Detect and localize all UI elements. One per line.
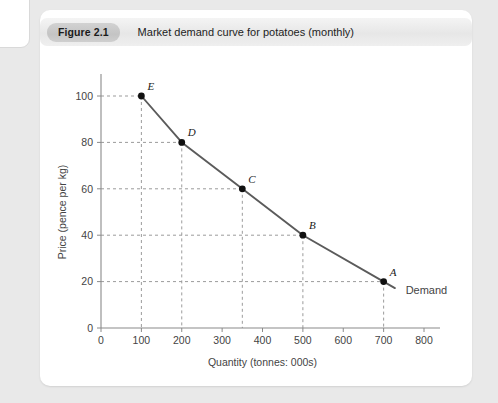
x-tick-label-0: 0 (98, 334, 104, 346)
x-axis-title: Quantity (tonnes: 000s) (208, 356, 317, 368)
x-tick-label-600: 600 (334, 334, 352, 346)
x-tick-label-400: 400 (254, 334, 272, 346)
data-point-label-E: E (146, 80, 154, 92)
data-points: EDCBA (138, 80, 397, 285)
demand-curve-chart: 0204060801000100200300400500600700800 ED… (40, 50, 472, 386)
y-tick-label-100: 100 (75, 90, 93, 102)
x-tick-label-800: 800 (415, 334, 433, 346)
figure-card: Figure 2.1 Market demand curve for potat… (40, 10, 472, 386)
figure-header: Figure 2.1 Market demand curve for potat… (40, 18, 472, 46)
figure-number-badge: Figure 2.1 (47, 23, 120, 42)
data-point-C (239, 185, 246, 192)
x-tick-label-300: 300 (213, 334, 231, 346)
data-point-label-C: C (248, 173, 256, 185)
y-tick-label-20: 20 (81, 275, 93, 287)
axis-ticks: 0204060801000100200300400500600700800 (75, 90, 432, 346)
x-tick-label-100: 100 (133, 334, 151, 346)
y-tick-label-80: 80 (81, 136, 93, 148)
data-point-D (178, 139, 185, 146)
axes (101, 74, 440, 328)
x-tick-label-500: 500 (294, 334, 312, 346)
data-point-label-B: B (309, 219, 316, 231)
y-tick-label-60: 60 (81, 183, 93, 195)
demand-curve-line (141, 96, 395, 288)
y-tick-label-40: 40 (81, 229, 93, 241)
data-point-label-A: A (389, 266, 397, 278)
data-point-A (380, 278, 387, 285)
y-axis-title: Price (pence per kg) (56, 165, 68, 260)
demand-curve-path (141, 96, 395, 288)
series-label-demand: Demand (406, 284, 448, 296)
figure-title: Market demand curve for potatoes (monthl… (138, 26, 354, 38)
chart-svg: 0204060801000100200300400500600700800 ED… (40, 50, 472, 386)
x-tick-label-200: 200 (173, 334, 191, 346)
x-tick-label-700: 700 (375, 334, 393, 346)
data-point-B (299, 232, 306, 239)
grid-lines (101, 96, 384, 328)
y-tick-label-0: 0 (87, 322, 93, 334)
data-point-label-D: D (187, 126, 196, 138)
data-point-E (138, 93, 145, 100)
adjacent-card-edge (0, 0, 30, 48)
